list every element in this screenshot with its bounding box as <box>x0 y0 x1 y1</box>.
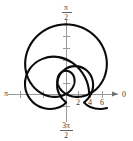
polar-plot-figure: 0 π π 2 3π 2 2 4 6 <box>0 0 133 141</box>
limacon-curve <box>25 57 107 109</box>
angle-label-bottom: 3π 2 <box>60 121 73 140</box>
polar-plot-svg: 0 π π 2 3π 2 2 4 6 <box>0 0 133 141</box>
radial-tick-label-4: 4 <box>88 98 92 107</box>
angle-label-top: π 2 <box>62 3 72 22</box>
angle-label-right: 0 <box>122 90 126 99</box>
radial-tick-labels: 2 4 6 <box>76 98 104 107</box>
angle-label-bottom-denominator: 2 <box>64 131 68 140</box>
angle-label-bottom-numerator: 3π <box>62 121 70 130</box>
angle-label-top-numerator: π <box>64 3 68 12</box>
radial-tick-label-6: 6 <box>100 98 104 107</box>
angle-label-left: π <box>4 89 8 98</box>
angle-label-left-text: π <box>4 89 8 98</box>
angle-label-top-denominator: 2 <box>64 13 68 22</box>
radial-tick-label-2: 2 <box>76 98 80 107</box>
horizontal-axis-arrowhead-icon <box>112 92 118 97</box>
limacon-curve-path <box>25 57 107 109</box>
angle-label-right-text: 0 <box>122 90 126 99</box>
